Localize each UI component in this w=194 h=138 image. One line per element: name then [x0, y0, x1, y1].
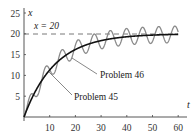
y-tick-label: 20 [11, 29, 21, 39]
y-tick-label: 15 [11, 50, 21, 60]
problem-46-leader [72, 58, 97, 74]
reference-line-label: x = 20 [33, 21, 59, 31]
x-tick-label: 40 [122, 123, 132, 133]
x-ticks: 102030405060 [45, 115, 183, 133]
x-tick-label: 50 [148, 123, 158, 133]
x-tick-label: 60 [173, 123, 183, 133]
y-axis-label: x [27, 7, 33, 18]
x-tick-label: 20 [71, 123, 81, 133]
problem-45-leader [49, 72, 72, 95]
x-axis-label: t [187, 99, 190, 110]
problem-45-label: Problem 45 [74, 92, 118, 102]
y-tick-label: 25 [11, 9, 21, 19]
y-tick-label: 5 [15, 92, 20, 102]
x-tick-label: 30 [96, 123, 106, 133]
x-tick-label: 10 [45, 123, 55, 133]
y-tick-label: 10 [11, 71, 21, 81]
chart: 102030405060 510152025 t x x = 20 Proble… [0, 0, 194, 138]
problem-46-label: Problem 46 [100, 70, 144, 80]
